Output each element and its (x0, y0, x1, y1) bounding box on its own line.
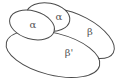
label-beta: β (87, 26, 93, 37)
region-diagram: α α β β' (0, 0, 118, 84)
label-alpha-back: α (56, 11, 63, 22)
label-alpha-front: α (30, 19, 37, 30)
label-beta-prime: β' (65, 47, 74, 58)
